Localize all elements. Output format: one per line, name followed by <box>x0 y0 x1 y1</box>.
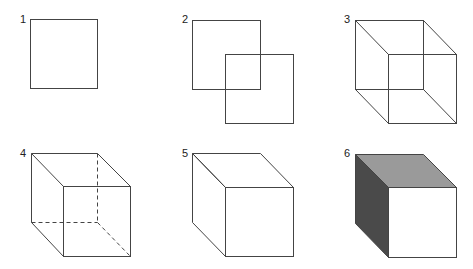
figure-6-shaded-cube <box>356 155 457 258</box>
figure-2-squares <box>193 21 294 124</box>
figure-3-wireframe-cube <box>356 21 457 124</box>
cube-steps-diagram <box>0 0 473 269</box>
figure-5-solid-cube <box>193 154 294 257</box>
figure-1-square <box>31 20 98 89</box>
figure-4-hidden-edges-cube <box>32 154 131 257</box>
front-face <box>389 188 457 258</box>
